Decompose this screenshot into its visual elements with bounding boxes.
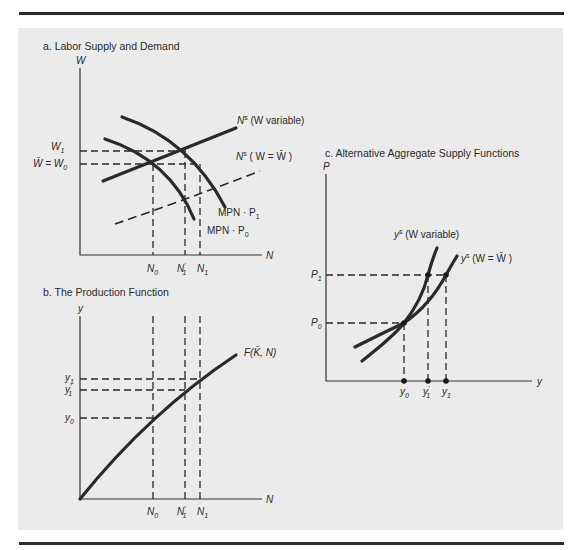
- labor-supply-variable-curve: [103, 128, 236, 181]
- y0-label-c: y0: [399, 386, 409, 399]
- panel-a-y-axis-label: W: [76, 55, 87, 66]
- point-p1-variable: [425, 272, 431, 278]
- w1-label: W1: [51, 141, 64, 154]
- n1-label-b: N1: [197, 506, 208, 519]
- y1-label-c: y1: [441, 386, 451, 399]
- panel-c-title: c. Alternative Aggregate Supply Function…: [325, 147, 519, 159]
- aggregate-supply-fixed-wage-label: ys (W = W̄ ): [460, 252, 512, 264]
- panel-b-x-axis-label: N: [266, 494, 274, 505]
- n0-label-b: N0: [147, 506, 158, 519]
- panel-b-title: b. The Production Function: [43, 286, 169, 298]
- point-p1-fixed: [443, 272, 449, 278]
- panel-a-labor-market: a. Labor Supply and Demand W N W1 W̄ = W…: [33, 40, 304, 276]
- p0-label: P0: [311, 317, 322, 330]
- panel-c-aggregate-supply: c. Alternative Aggregate Supply Function…: [311, 147, 543, 399]
- labor-demand-p0-label: MPN · P0: [207, 225, 249, 238]
- n1-prime-label: N'1: [177, 262, 187, 276]
- n1-prime-label-b: N'1: [177, 505, 187, 519]
- panel-b-axes: [80, 316, 262, 499]
- panel-a-title: a. Labor Supply and Demand: [43, 40, 180, 52]
- panel-b-y-axis-label: y: [77, 303, 84, 314]
- production-function-curve: [80, 355, 236, 499]
- panel-c-y-axis-label: P: [323, 161, 330, 172]
- y1-axis-dot: [443, 378, 449, 384]
- panel-b-production-function: b. The Production Function y N y1 y'1 y0…: [43, 286, 276, 519]
- labor-supply-fixed-wage-label: Ns ( W = W̄ ): [236, 150, 292, 162]
- n0-label: N0: [147, 263, 158, 276]
- labor-demand-p1-curve: [122, 117, 225, 207]
- figure-canvas: a. Labor Supply and Demand W N W1 W̄ = W…: [0, 0, 584, 550]
- equilibrium-point-p0: [401, 320, 407, 326]
- panel-c-x-axis-label: y: [536, 376, 543, 387]
- y1-prime-label: y'1: [64, 383, 72, 397]
- labor-supply-variable-label: Ns (W variable): [237, 114, 304, 126]
- aggregate-supply-variable-wage-label: ys (W variable): [393, 228, 459, 240]
- labor-demand-p1-label: MPN · P1: [218, 207, 260, 220]
- w0-label: W̄ = W0: [33, 157, 67, 171]
- y1-prime-label-c: y'1: [422, 385, 430, 399]
- aggregate-supply-fixed-wage-curve: [355, 256, 457, 347]
- p1-label: P1: [311, 269, 322, 282]
- y0-label: y0: [64, 412, 74, 425]
- y0-axis-dot: [401, 378, 407, 384]
- production-function-label: F(K̄, N): [244, 346, 276, 358]
- y1-prime-axis-dot: [425, 378, 431, 384]
- n1-label: N1: [197, 263, 208, 276]
- panel-a-x-axis-label: N: [266, 250, 274, 261]
